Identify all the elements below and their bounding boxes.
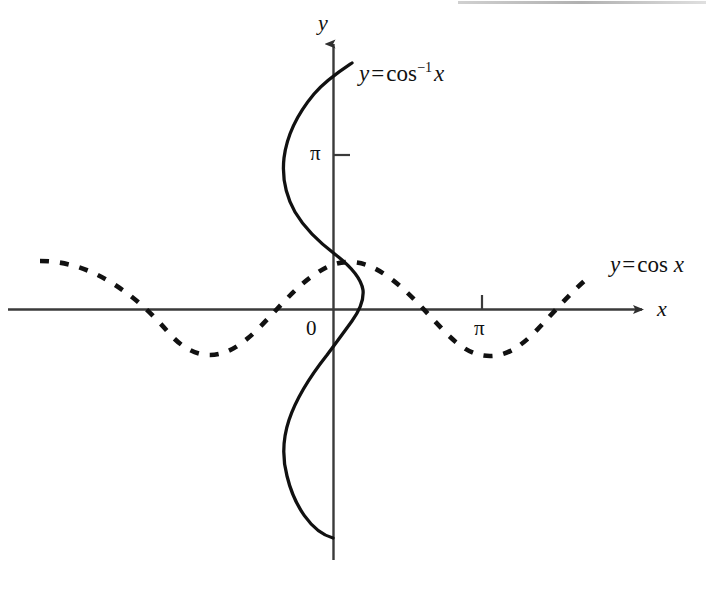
plot-canvas: [0, 0, 706, 593]
inverse-label-equals: =: [369, 61, 386, 86]
figure-container: y x 0 π π y=cos−1 x y=cos x: [0, 0, 706, 593]
cosine-label-function: cos: [637, 252, 668, 277]
cosine-label-argument: x: [674, 252, 684, 277]
cosine-curve-label: y=cos x: [610, 253, 684, 276]
inverse-label-variable: y: [359, 61, 369, 86]
origin-label: 0: [306, 318, 317, 339]
inverse-cosine-curve-solid: [283, 63, 363, 538]
inverse-cosine-curve-label: y=cos−1 x: [359, 60, 444, 85]
inverse-label-exponent: −1: [417, 59, 432, 75]
cosine-label-variable: y: [610, 252, 620, 277]
y-axis-tick-label-pi: π: [310, 143, 321, 164]
cosine-label-equals: =: [620, 252, 637, 277]
x-axis-tick-label-pi: π: [474, 318, 485, 339]
inverse-label-function: cos: [386, 61, 417, 86]
inverse-label-argument: x: [434, 61, 444, 86]
x-axis-label: x: [657, 298, 667, 320]
y-axis-label: y: [318, 12, 328, 34]
